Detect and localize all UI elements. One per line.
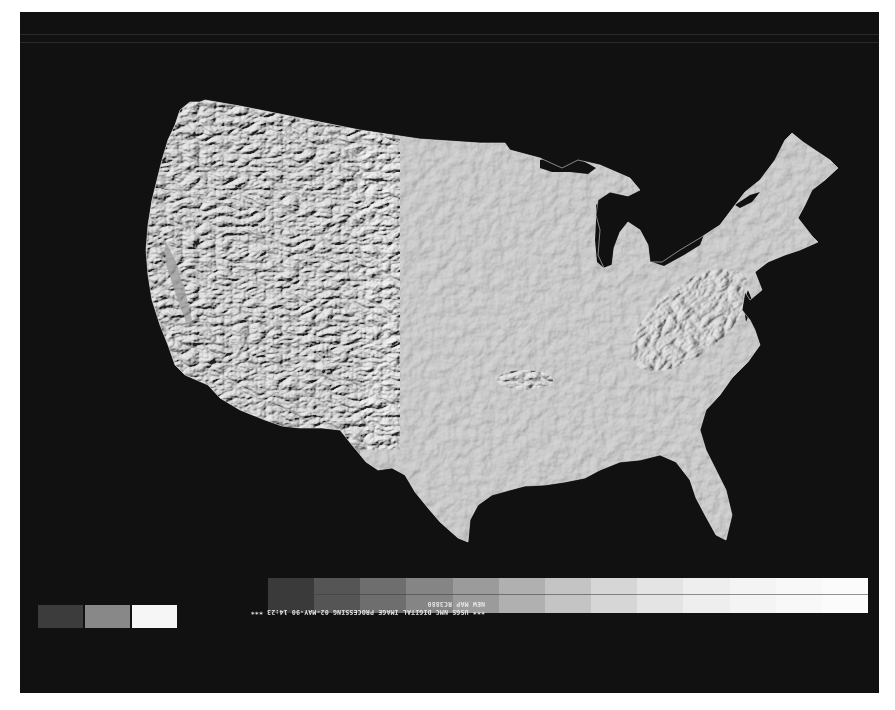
processing-caption: *** USGS NMC DIGITAL IMAGE PROCESSING 02…: [225, 600, 485, 616]
lake-michigan: [595, 195, 614, 268]
map-frame: *** USGS NMC DIGITAL IMAGE PROCESSING 02…: [20, 12, 879, 693]
gray-step-divider: [591, 594, 637, 595]
gray-step-divider: [730, 594, 776, 595]
gray-step-divider: [453, 594, 499, 595]
gray-step-divider: [499, 594, 545, 595]
gray-step: [822, 578, 868, 613]
gray-step-divider: [776, 594, 822, 595]
reference-square: [38, 605, 83, 628]
gray-step-divider: [545, 594, 591, 595]
gray-step: [591, 578, 637, 613]
gray-step: [683, 578, 729, 613]
gray-step-divider: [637, 594, 683, 595]
reference-square: [85, 605, 130, 628]
caption-line-2: NEW MAP RC3880: [225, 600, 485, 608]
gray-step: [730, 578, 776, 613]
gray-step: [776, 578, 822, 613]
reference-square: [132, 605, 177, 628]
gray-step-divider: [314, 594, 360, 595]
gray-step: [499, 578, 545, 613]
relief-east: [360, 90, 860, 560]
gray-step-divider: [360, 594, 406, 595]
gray-step: [637, 578, 683, 613]
gray-step-divider: [822, 594, 868, 595]
gray-step: [545, 578, 591, 613]
caption-line-1: *** USGS NMC DIGITAL IMAGE PROCESSING 02…: [225, 608, 485, 616]
reference-squares: [38, 605, 177, 628]
gray-step-divider: [268, 594, 314, 595]
gray-step-divider: [406, 594, 452, 595]
gray-step-divider: [683, 594, 729, 595]
relief-west: [140, 90, 400, 450]
